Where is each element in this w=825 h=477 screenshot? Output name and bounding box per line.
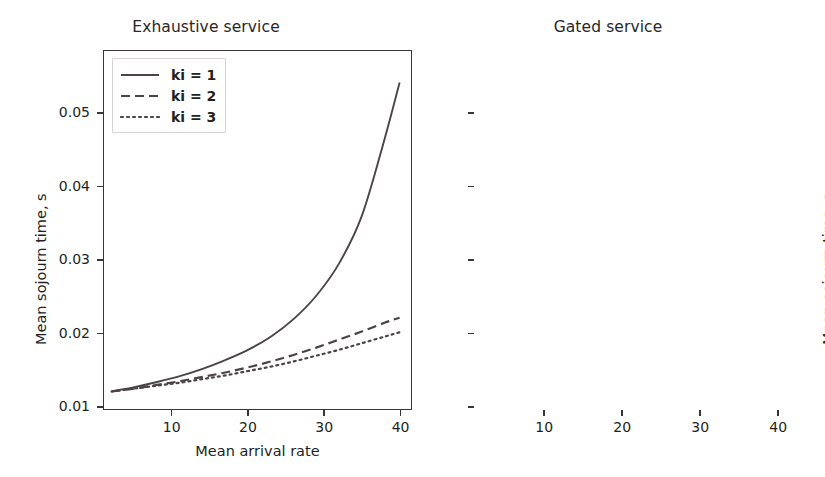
y-tick-mark (97, 333, 103, 335)
y-tick-mark (97, 112, 103, 114)
panel-title-gated: Gated service (402, 18, 814, 36)
x-tick-label: 10 (524, 419, 564, 435)
y-tick-mark (97, 406, 103, 408)
legend-item-ki1[interactable]: ki = 1 (120, 64, 216, 85)
y-tick-mark (468, 186, 474, 188)
y-tick-label: 0.02 (43, 325, 90, 341)
legend-line-swatch-solid (120, 69, 160, 81)
x-tick-label: 20 (602, 419, 642, 435)
x-tick-mark (171, 410, 173, 416)
y-tick-label: 0.01 (43, 398, 90, 414)
y-axis-label-exhaustive: Mean sojourn time, s (33, 193, 49, 345)
legend-line-swatch-dashed (120, 90, 160, 102)
legend-label: ki = 3 (171, 109, 216, 125)
x-tick-mark (247, 410, 249, 416)
y-tick-label: 0.03 (43, 251, 90, 267)
y-tick-mark (97, 186, 103, 188)
y-tick-label: 0.04 (43, 178, 90, 194)
legend-exhaustive: ki = 1ki = 2ki = 3 (112, 58, 226, 133)
x-tick-label: 30 (680, 419, 720, 435)
series-line-ki2 (112, 318, 400, 392)
x-tick-label: 40 (758, 419, 798, 435)
x-tick-label: 10 (152, 419, 192, 435)
y-tick-mark (97, 259, 103, 261)
y-tick-mark (468, 406, 474, 408)
x-tick-label: 20 (228, 419, 268, 435)
x-tick-mark (621, 410, 623, 416)
y-tick-label: 0.05 (43, 104, 90, 120)
x-tick-label: 30 (304, 419, 344, 435)
x-tick-mark (543, 410, 545, 416)
chart-panel-gated: Gated service 10203040 Mean arrival rate… (371, 0, 783, 477)
x-tick-mark (699, 410, 701, 416)
legend-label: ki = 1 (171, 67, 216, 83)
legend-item-ki2[interactable]: ki = 2 (120, 85, 216, 106)
legend-label: ki = 2 (171, 88, 216, 104)
y-tick-mark (468, 333, 474, 335)
x-tick-mark (323, 410, 325, 416)
chart-panel-exhaustive: Exhaustive service 0.010.020.030.040.051… (0, 0, 412, 477)
x-tick-mark (777, 410, 779, 416)
legend-line-swatch-dotted (120, 111, 160, 123)
legend-item-ki3[interactable]: ki = 3 (120, 106, 216, 127)
y-tick-mark (468, 112, 474, 114)
panel-title-exhaustive: Exhaustive service (0, 18, 412, 36)
x-axis-label-exhaustive: Mean arrival rate (103, 443, 412, 459)
figure-canvas: Exhaustive service 0.010.020.030.040.051… (0, 0, 825, 477)
y-tick-mark (468, 259, 474, 261)
y-axis-label-gated: Mean sojourn time, s (820, 193, 825, 345)
